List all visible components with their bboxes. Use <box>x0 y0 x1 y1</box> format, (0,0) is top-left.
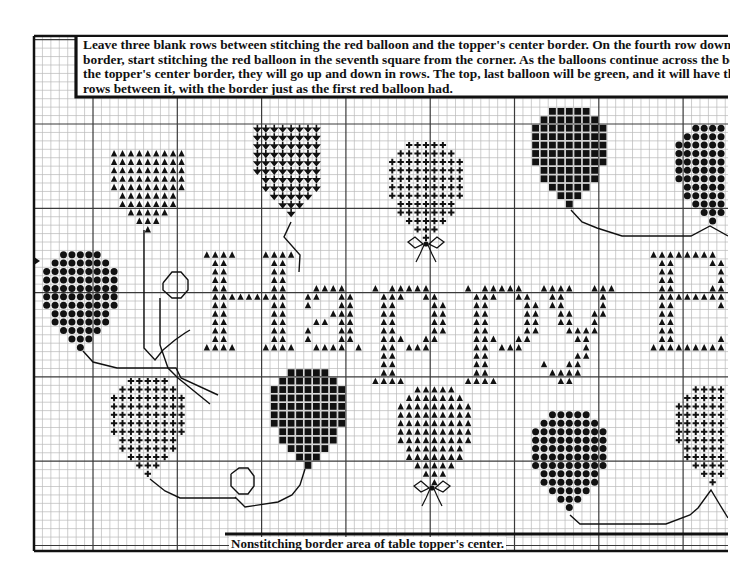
circle-icon <box>94 251 101 258</box>
triangle-icon <box>398 285 404 291</box>
square-icon <box>557 108 564 115</box>
plus-icon <box>398 176 404 182</box>
square-icon <box>532 159 539 166</box>
triangle-icon <box>389 344 395 350</box>
plus-icon <box>128 437 134 443</box>
square-icon <box>541 116 548 123</box>
plus-icon <box>718 395 724 401</box>
square-icon <box>305 395 312 402</box>
plus-icon <box>676 412 682 418</box>
plus-icon <box>153 428 159 434</box>
circle-icon <box>583 487 590 494</box>
plus-icon <box>153 437 159 443</box>
plus-icon <box>431 218 437 224</box>
circle-icon <box>718 209 725 216</box>
circle-icon <box>692 184 699 191</box>
circle-icon <box>94 268 101 275</box>
plus-icon <box>161 395 167 401</box>
circle-icon <box>566 445 573 452</box>
triangle-icon <box>381 327 387 333</box>
triangle-icon <box>693 344 699 350</box>
triangle-icon <box>566 361 572 367</box>
plus-icon <box>684 420 690 426</box>
square-icon <box>305 386 312 393</box>
plus-icon <box>389 167 395 173</box>
triangle-icon <box>718 344 724 350</box>
plus-icon <box>718 445 724 451</box>
triangle-icon <box>457 411 463 417</box>
plus-icon <box>136 378 142 384</box>
triangle-icon <box>145 192 151 198</box>
triangle-icon <box>406 445 412 451</box>
triangle-icon <box>507 344 513 350</box>
circle-icon <box>718 150 725 157</box>
square-icon <box>549 159 556 166</box>
triangle-icon <box>440 470 446 476</box>
triangle-icon <box>313 344 319 350</box>
plus-icon <box>128 445 134 451</box>
circle-icon <box>574 462 581 469</box>
circle-icon <box>102 293 109 300</box>
triangle-icon <box>145 175 151 181</box>
plus-icon <box>111 412 117 418</box>
plus-icon <box>457 176 463 182</box>
circle-icon <box>557 411 564 418</box>
plus-icon <box>178 395 184 401</box>
triangle-icon <box>440 437 446 443</box>
square-icon <box>574 192 581 199</box>
square-icon <box>313 445 320 452</box>
triangle-icon <box>575 352 581 358</box>
circle-icon <box>566 420 573 427</box>
square-icon <box>313 411 320 418</box>
square-icon <box>600 159 607 166</box>
circle-icon <box>583 479 590 486</box>
circle-icon <box>600 453 607 460</box>
square-icon <box>574 159 581 166</box>
circle-icon <box>709 167 716 174</box>
triangle-icon <box>575 361 581 367</box>
circle-icon <box>68 293 75 300</box>
down-arrow-icon <box>305 175 311 182</box>
triangle-icon <box>482 369 488 375</box>
triangle-icon <box>347 310 353 316</box>
triangle-icon <box>423 445 429 451</box>
triangle-icon <box>414 344 420 350</box>
triangle-icon <box>549 369 555 375</box>
circle-icon <box>566 470 573 477</box>
circle-icon <box>549 445 556 452</box>
triangle-icon <box>136 175 142 181</box>
square-icon <box>288 437 295 444</box>
circle-icon <box>77 327 84 334</box>
triangle-icon <box>457 428 463 434</box>
plus-icon <box>128 395 134 401</box>
triangle-icon <box>431 319 437 325</box>
circle-icon <box>77 335 84 342</box>
circle-icon <box>557 420 564 427</box>
triangle-icon <box>414 420 420 426</box>
square-icon <box>557 159 564 166</box>
plus-icon <box>448 167 454 173</box>
triangle-icon <box>414 445 420 451</box>
circle-icon <box>600 445 607 452</box>
plus-icon <box>676 428 682 434</box>
plus-icon <box>406 209 412 215</box>
plus-icon <box>684 412 690 418</box>
triangle-icon <box>161 167 167 173</box>
plus-icon <box>389 192 395 198</box>
triangle-icon <box>667 293 673 299</box>
down-arrow-icon <box>314 167 320 174</box>
triangle-icon <box>381 302 387 308</box>
triangle-icon <box>473 336 479 342</box>
plus-icon <box>128 428 134 434</box>
plus-icon <box>414 184 420 190</box>
triangle-icon <box>667 344 673 350</box>
triangle-icon <box>524 327 530 333</box>
square-icon <box>566 159 573 166</box>
plus-icon <box>701 471 707 477</box>
triangle-icon <box>229 293 235 299</box>
square-icon <box>566 167 573 174</box>
triangle-icon <box>676 344 682 350</box>
triangle-icon <box>111 184 117 190</box>
square-icon <box>574 125 581 132</box>
square-icon <box>288 411 295 418</box>
